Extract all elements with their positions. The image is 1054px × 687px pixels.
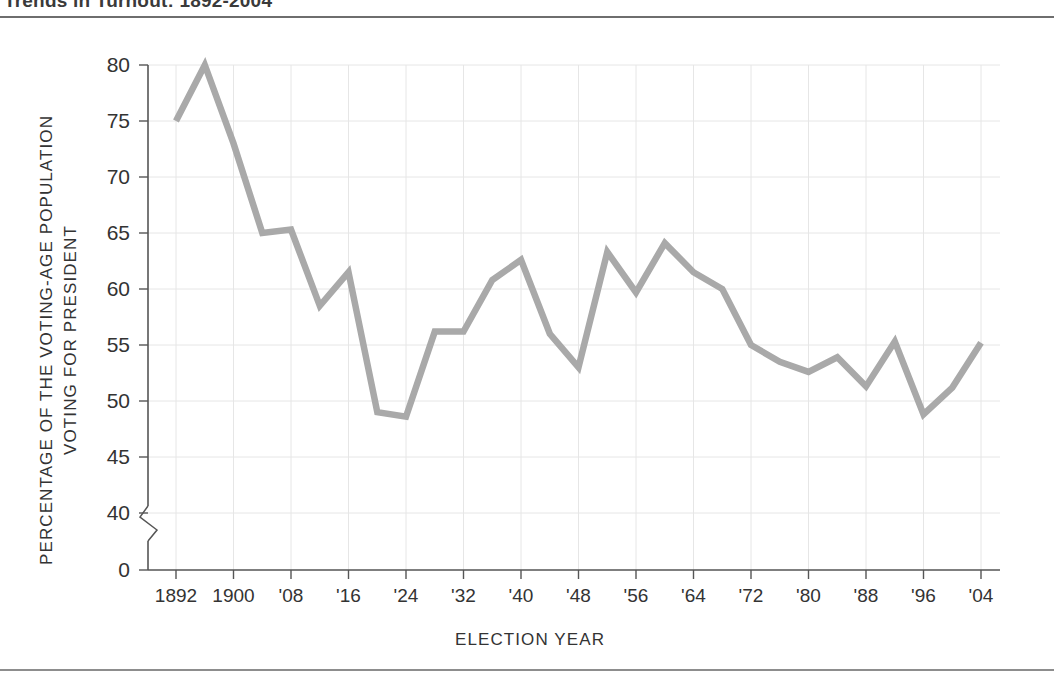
x-tick-label-1892: 1892 [155,585,197,606]
x-tick-label-'48: '48 [566,585,591,606]
y-tick-label-75: 75 [107,109,130,132]
y-axis-title-line2: VOTING FOR PRESIDENT [61,225,80,455]
y-tick-label-55: 55 [107,333,130,356]
y-axis-title-line1: PERCENTAGE OF THE VOTING-AGE POPULATION [37,115,56,565]
x-axis-title: ELECTION YEAR [455,630,605,649]
x-tick-label-'40: '40 [509,585,534,606]
bottom-divider [0,669,1054,671]
x-tick-label-'88: '88 [854,585,879,606]
gridlines-group [148,65,1000,570]
y-tick-label-70: 70 [107,165,130,188]
y-tick-label-60: 60 [107,277,130,300]
axis-break-icon [140,506,157,541]
x-tick-label-'04: '04 [969,585,994,606]
y-tick-group: 0404550556065707580 [107,53,148,581]
turnout-line-chart: 0404550556065707580 18921900'08'16'24'32… [0,20,1054,668]
y-tick-label-45: 45 [107,445,130,468]
x-tick-label-'24: '24 [394,585,419,606]
y-tick-label-80: 80 [107,53,130,76]
x-tick-label-'96: '96 [911,585,936,606]
x-tick-label-'64: '64 [681,585,706,606]
y-tick-label-50: 50 [107,389,130,412]
x-tick-label-'80: '80 [796,585,821,606]
y-tick-label-65: 65 [107,221,130,244]
y-tick-label-40: 40 [107,501,130,524]
x-tick-label-'32: '32 [451,585,476,606]
page-title: Trends in Turnout: 1892-2004 [4,0,272,12]
figure-title-strip: Trends in Turnout: 1892-2004 [0,0,1054,14]
x-tick-label-'56: '56 [624,585,649,606]
y-tick-label-0: 0 [118,558,130,581]
top-divider [0,16,1054,18]
x-tick-label-'08: '08 [279,585,304,606]
x-tick-label-'16: '16 [336,585,361,606]
x-tick-label-1900: 1900 [212,585,254,606]
chart-container: 0404550556065707580 18921900'08'16'24'32… [0,20,1054,668]
x-tick-label-'72: '72 [739,585,764,606]
x-tick-group: 18921900'08'16'24'32'40'48'56'64'72'80'8… [155,570,994,606]
